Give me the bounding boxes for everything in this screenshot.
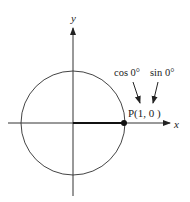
cos-arrow xyxy=(133,82,140,103)
point-p xyxy=(121,120,127,126)
sin-arrow xyxy=(153,82,158,103)
cos-label: cos 0° xyxy=(114,67,140,78)
sin-label: sin 0° xyxy=(150,67,174,78)
x-axis-label: x xyxy=(173,118,179,130)
unit-circle-diagram: y x cos 0° sin 0° P(1, 0 ) xyxy=(0,0,190,202)
point-label: P(1, 0 ) xyxy=(128,107,161,120)
y-axis-label: y xyxy=(70,12,76,24)
